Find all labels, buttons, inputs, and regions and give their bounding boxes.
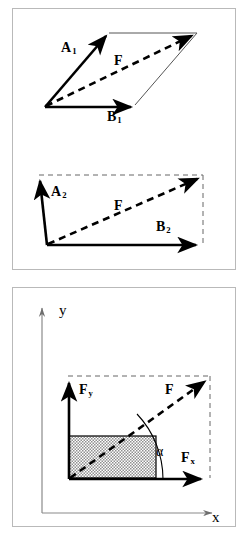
cartesian-components-diagram xyxy=(42,308,212,513)
label-f2: F xyxy=(114,199,123,213)
label-b1-base: B xyxy=(107,109,116,124)
label-b2-base: B xyxy=(156,219,165,234)
label-axis-x-base: x xyxy=(212,509,220,525)
vector-a2 xyxy=(40,181,47,245)
label-fy-base: F xyxy=(79,382,88,397)
label-a2: A2 xyxy=(51,185,66,200)
components-panel: y x Fy Fx F α xyxy=(12,287,236,527)
parallelogram-panel: A1 B1 F A2 B2 F xyxy=(12,8,236,270)
label-f3: F xyxy=(165,383,174,397)
label-a1-base: A xyxy=(61,40,71,55)
label-axis-x: x xyxy=(212,510,220,525)
label-b1-sub: 1 xyxy=(116,115,121,125)
label-f3-base: F xyxy=(165,382,174,397)
label-a2-base: A xyxy=(51,184,61,199)
label-fy: Fy xyxy=(79,383,93,398)
label-b1: B1 xyxy=(107,110,122,125)
label-alpha: α xyxy=(156,445,163,459)
label-f2-base: F xyxy=(114,198,123,213)
label-alpha-base: α xyxy=(156,444,163,459)
label-b2-sub: 2 xyxy=(165,225,170,235)
label-fx-base: F xyxy=(181,450,190,465)
label-fy-sub: y xyxy=(88,388,93,398)
components-graphics xyxy=(13,288,235,526)
label-f1-base: F xyxy=(114,53,123,68)
label-a1: A1 xyxy=(61,41,76,56)
label-b2: B2 xyxy=(156,220,171,235)
label-axis-y: y xyxy=(59,303,67,318)
parallelogram-graphics xyxy=(13,9,235,269)
label-a1-sub: 1 xyxy=(71,46,76,56)
parallelogram-right-side xyxy=(135,33,197,105)
label-axis-y-base: y xyxy=(59,302,67,318)
figure-root: A1 B1 F A2 B2 F xyxy=(0,0,248,535)
label-fx-sub: x xyxy=(190,456,195,466)
label-fx: Fx xyxy=(181,451,195,466)
label-f1: F xyxy=(114,54,123,68)
shaded-component-rectangle xyxy=(69,436,156,478)
label-a2-sub: 2 xyxy=(61,190,66,200)
